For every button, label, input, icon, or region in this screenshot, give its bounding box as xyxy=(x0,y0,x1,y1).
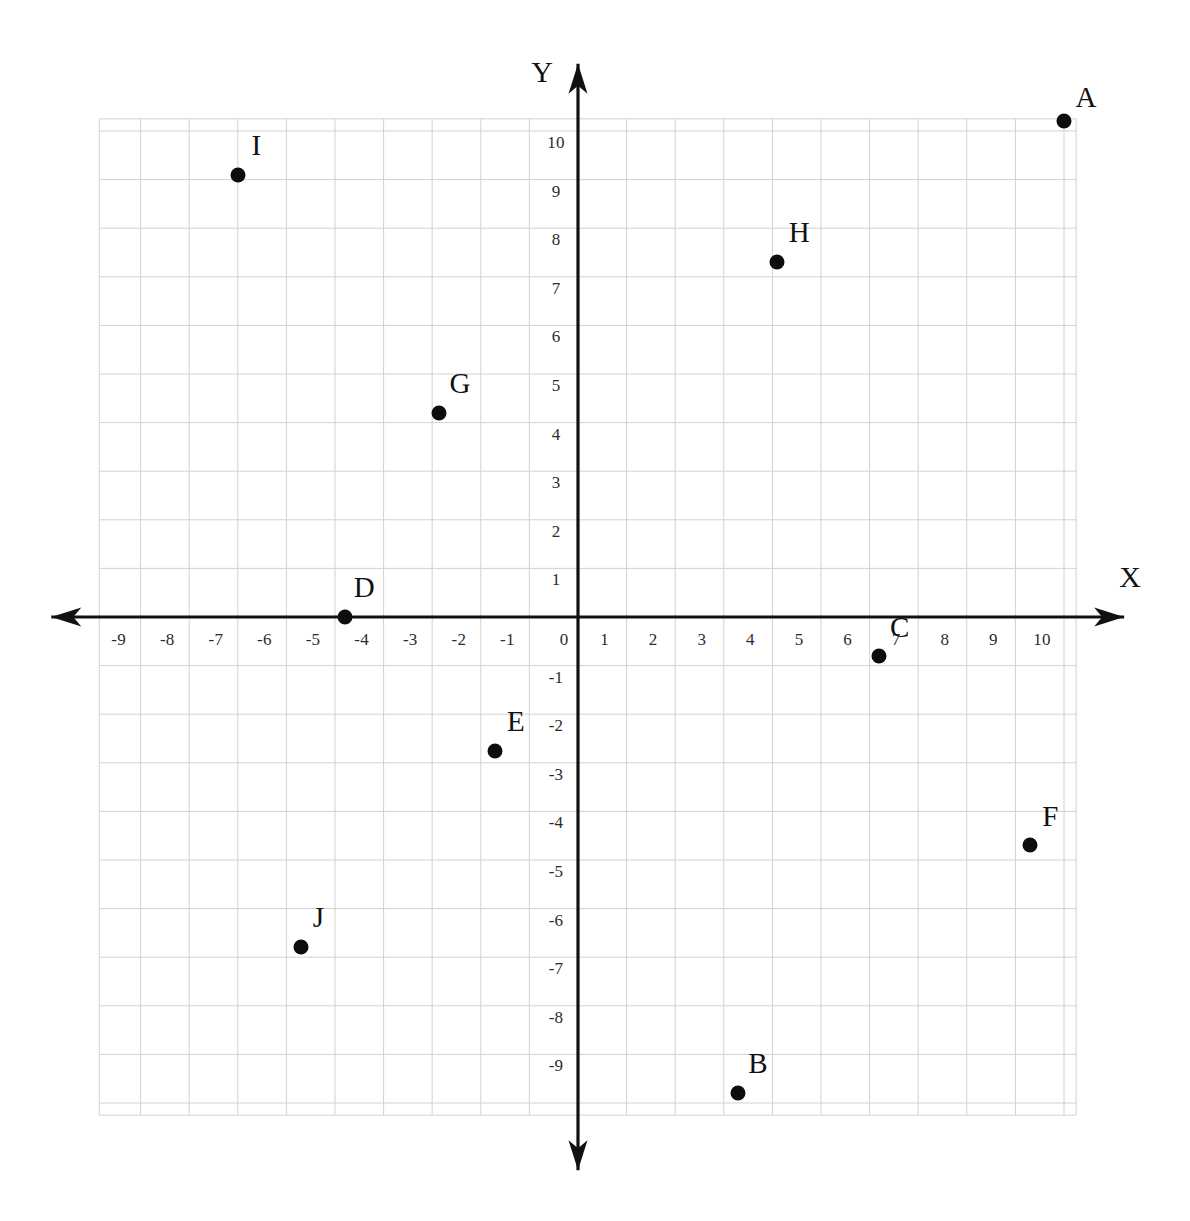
y-axis-tick-label: 9 xyxy=(552,182,561,202)
data-point-marker[interactable] xyxy=(337,610,352,625)
data-point-label: E xyxy=(507,704,525,737)
data-point-label: F xyxy=(1042,800,1058,833)
y-axis-tick-label: 6 xyxy=(552,327,561,347)
x-axis-tick-label: 8 xyxy=(940,630,949,650)
y-axis-tick-label: -1 xyxy=(549,668,564,688)
data-point-label: D xyxy=(354,570,375,603)
y-axis-tick-label: -7 xyxy=(549,959,564,979)
data-point-label: A xyxy=(1075,80,1096,113)
data-point-label: C xyxy=(890,610,909,643)
x-axis-tick-label: 9 xyxy=(989,630,998,650)
y-axis-tick-label: -9 xyxy=(549,1056,564,1076)
y-axis-tick-label: 4 xyxy=(552,425,561,445)
x-axis-tick-label: 0 xyxy=(560,630,569,650)
x-axis-tick-label: 10 xyxy=(1033,630,1050,650)
x-axis-tick-label: 4 xyxy=(746,630,755,650)
data-point-label: G xyxy=(449,366,470,399)
data-point-marker[interactable] xyxy=(230,167,245,182)
x-axis-tick-label: -3 xyxy=(403,630,418,650)
x-axis-tick-label: -9 xyxy=(111,630,126,650)
y-axis-tick-label: -5 xyxy=(549,862,564,882)
data-point-label: B xyxy=(748,1047,767,1080)
y-axis-title: Y xyxy=(531,55,553,89)
y-axis-tick-label: -8 xyxy=(549,1008,564,1028)
x-axis-tick-label: -5 xyxy=(306,630,321,650)
data-point-marker[interactable] xyxy=(293,940,308,955)
coordinate-plane-figure: -9-8-7-6-5-4-3-2-10123456789101098765432… xyxy=(0,0,1190,1221)
y-axis-tick-label: -2 xyxy=(549,716,564,736)
data-point-label: H xyxy=(789,216,810,249)
data-point-marker[interactable] xyxy=(1057,114,1072,129)
data-point-label: I xyxy=(251,128,261,161)
x-axis-tick-label: 3 xyxy=(697,630,706,650)
data-point-marker[interactable] xyxy=(488,743,503,758)
data-point-label: J xyxy=(313,901,324,934)
data-point-marker[interactable] xyxy=(1022,838,1037,853)
y-axis-tick-label: 3 xyxy=(552,473,561,493)
y-axis-tick-label: -4 xyxy=(549,813,564,833)
data-point-marker[interactable] xyxy=(770,255,785,270)
y-axis-tick-label: 1 xyxy=(552,570,561,590)
x-axis-tick-label: 2 xyxy=(649,630,658,650)
x-axis-tick-label: -8 xyxy=(160,630,175,650)
y-axis-tick-label: 10 xyxy=(547,133,564,153)
x-axis-tick-label: -6 xyxy=(257,630,272,650)
y-axis-tick-label: 8 xyxy=(552,230,561,250)
x-axis-tick-label: -2 xyxy=(452,630,467,650)
data-point-marker[interactable] xyxy=(872,648,887,663)
grid-and-axes xyxy=(0,0,1190,1221)
y-axis-tick-label: 2 xyxy=(552,522,561,542)
x-axis-tick-label: -1 xyxy=(500,630,515,650)
data-point-marker[interactable] xyxy=(432,405,447,420)
y-axis-tick-label: -6 xyxy=(549,911,564,931)
x-axis-tick-label: -7 xyxy=(209,630,224,650)
axis-lines xyxy=(51,64,1124,1170)
y-axis-tick-label: 5 xyxy=(552,376,561,396)
x-axis-title: X xyxy=(1119,560,1141,594)
x-axis-tick-label: -4 xyxy=(354,630,369,650)
y-axis-tick-label: 7 xyxy=(552,279,561,299)
y-axis-tick-label: -3 xyxy=(549,765,564,785)
x-axis-tick-label: 5 xyxy=(795,630,804,650)
data-point-marker[interactable] xyxy=(731,1086,746,1101)
x-axis-tick-label: 1 xyxy=(600,630,609,650)
x-axis-tick-label: 6 xyxy=(843,630,852,650)
